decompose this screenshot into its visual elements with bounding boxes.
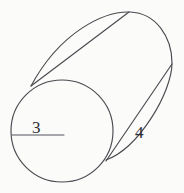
cylinder-diagram: 3 4: [0, 0, 184, 193]
radius-label: 3: [32, 119, 41, 136]
slant-label: 4: [135, 124, 144, 141]
near-face-circle: [11, 80, 113, 182]
bottom-tangent-line: [106, 64, 172, 161]
diagram-canvas: [0, 0, 184, 193]
top-tangent-line: [31, 12, 129, 86]
far-face-arc: [31, 12, 172, 160]
